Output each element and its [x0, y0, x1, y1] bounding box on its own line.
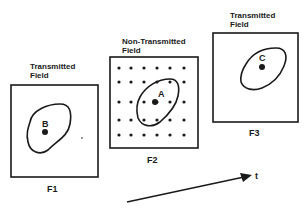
grid-dot — [168, 80, 171, 83]
grid-dot — [117, 118, 120, 121]
point-b-label: B — [42, 119, 49, 129]
grid-dot — [142, 66, 145, 69]
grid-dot — [182, 118, 185, 121]
grid-dot — [117, 80, 120, 83]
grid-dot — [168, 100, 171, 103]
grid-dot — [182, 66, 185, 69]
grid-dot — [155, 133, 158, 136]
grid-dot — [129, 66, 132, 69]
grid-dot — [129, 100, 132, 103]
grid-dot — [129, 80, 132, 83]
grid-dot — [117, 133, 120, 136]
point-a-label: A — [158, 89, 165, 99]
grid-dot — [142, 80, 145, 83]
grid-dot — [142, 133, 145, 136]
point-c-label: C — [259, 53, 266, 63]
grid-dot — [155, 118, 158, 121]
grid-dot — [129, 133, 132, 136]
grid-dot — [117, 66, 120, 69]
grid-dot — [168, 118, 171, 121]
frame-f2: A — [110, 57, 198, 148]
grid-dot — [117, 100, 120, 103]
arrowhead-icon — [240, 173, 252, 182]
point-c-dot — [259, 64, 265, 70]
grid-dot — [182, 80, 185, 83]
diagram-canvas: B A C t — [0, 0, 304, 210]
grid-dot — [168, 133, 171, 136]
grid-dot — [182, 100, 185, 103]
f1-region-outline — [27, 104, 71, 153]
point-b-dot — [42, 129, 48, 135]
grid-dot — [168, 66, 171, 69]
grid-dot — [142, 118, 145, 121]
grid-dot — [155, 66, 158, 69]
grid-dot — [182, 133, 185, 136]
time-arrow: t — [127, 171, 258, 202]
stray-dot — [81, 137, 83, 139]
grid-dot — [129, 118, 132, 121]
time-axis-label: t — [255, 171, 258, 181]
frame-f1: B — [11, 85, 98, 177]
grid-dot — [142, 100, 145, 103]
frame-f3: C — [213, 33, 298, 122]
point-a-dot — [152, 99, 158, 105]
